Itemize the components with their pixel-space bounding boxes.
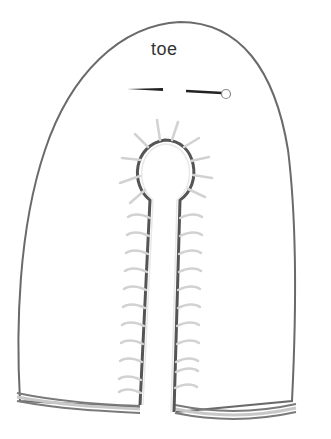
- circle-marker-icon: [222, 90, 231, 99]
- toe-label: toe: [151, 39, 178, 60]
- pattern-diagram: toe: [0, 0, 331, 439]
